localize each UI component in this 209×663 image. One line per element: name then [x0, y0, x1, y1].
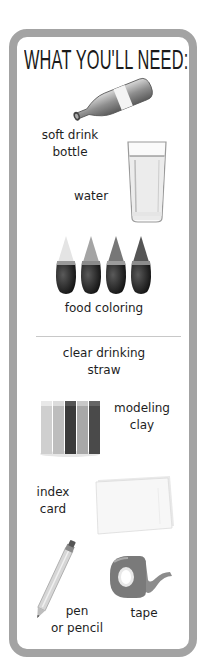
- item-label-index-card: index card: [30, 484, 76, 518]
- item-label-water: water: [66, 188, 116, 205]
- modeling-clay-icon: [38, 398, 102, 458]
- item-label-food-coloring: food coloring: [46, 300, 162, 317]
- item-label-modeling-clay: modeling clay: [108, 400, 176, 434]
- divider: [36, 336, 181, 337]
- glass-of-water-icon: [126, 140, 168, 224]
- tape-dispenser-icon: [106, 552, 176, 602]
- item-label-soft-drink-bottle: soft drink bottle: [30, 127, 110, 161]
- item-label-pen-or-pencil: pen or pencil: [44, 603, 110, 637]
- index-card-icon: [92, 474, 178, 536]
- page-title: WHAT YOU'LL NEED:: [24, 44, 162, 76]
- item-label-clear-drinking-straw: clear drinking straw: [46, 345, 162, 379]
- item-label-tape: tape: [120, 605, 168, 622]
- food-coloring-bottles-icon: [54, 234, 156, 296]
- bottle-icon: [68, 77, 156, 127]
